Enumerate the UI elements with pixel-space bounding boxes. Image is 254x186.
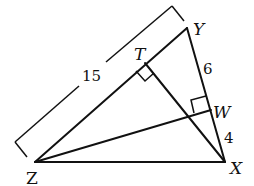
segment-zy — [35, 28, 187, 162]
point-label-w: W — [213, 102, 232, 122]
length-label-yw: 6 — [203, 60, 213, 78]
right-angle-marker-t — [136, 71, 154, 81]
length-label-zy: 15 — [82, 67, 101, 85]
vertex-label-y: Y — [193, 19, 206, 39]
altitude-zw — [35, 110, 211, 162]
length-label-wx: 4 — [224, 129, 234, 147]
right-angle-marker-w — [191, 96, 206, 113]
segment-yx — [187, 28, 225, 162]
vertex-label-x: X — [228, 158, 243, 178]
point-label-t: T — [134, 44, 147, 64]
geometry-diagram: Y T W X Z 15 6 4 — [0, 0, 254, 186]
vertex-label-z: Z — [26, 168, 38, 186]
